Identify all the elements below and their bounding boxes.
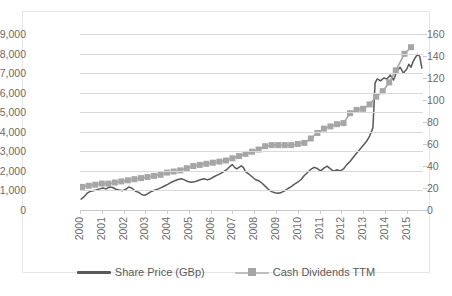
chart-legend: Share Price (GBp) Cash Dividends TTM [23,262,429,282]
data-point-marker [125,177,131,183]
y-axis-right-tick-label: 100 [427,95,452,106]
data-point-marker [295,141,301,147]
data-point-marker [203,161,209,167]
x-axis-tick-label: 2000 [74,217,85,240]
gridline [80,54,423,55]
data-point-marker [80,184,85,190]
y-axis-left-tick-label: 5,000 [0,107,26,118]
y-axis-left-tick-label: 9,000 [0,29,26,40]
x-axis-tick-label: 2001 [96,217,107,240]
x-axis-tick-mark [385,210,386,214]
data-point-marker [197,162,203,168]
y-axis-right-tick-mark [423,166,427,167]
data-point-marker [327,123,333,129]
share-price-line-swatch [77,271,111,274]
x-axis-tick-label: 2004 [161,217,172,240]
data-point-marker [223,158,229,164]
chart-frame: 01,0002,0003,0004,0005,0006,0007,0008,00… [22,11,430,273]
data-point-marker [138,175,144,181]
x-axis-tick-label: 2003 [139,217,150,240]
data-point-marker [408,44,414,50]
data-point-marker [321,126,327,132]
y-axis-left-tick-label: 1,000 [0,185,26,196]
y-axis-right-tick-label: 60 [427,139,452,150]
data-point-marker [229,155,235,161]
data-point-marker [216,159,222,165]
x-axis-tick-mark [407,210,408,214]
y-axis-right-tick-label: 0 [427,205,452,216]
data-point-marker [99,181,105,187]
y-axis-right-tick-mark [423,210,427,211]
data-point-marker [373,94,379,100]
gridline [80,73,423,74]
x-axis-tick-label: 2008 [248,217,259,240]
y-axis-right-tick-label: 20 [427,183,452,194]
y-axis-right-tick-mark [423,100,427,101]
legend-item-cash-dividends[interactable]: Cash Dividends TTM [235,267,376,278]
x-axis-tick-mark [254,210,255,214]
data-point-marker [105,181,111,187]
series-canvas [80,34,423,210]
data-point-marker [269,142,275,148]
x-axis-tick-label: 2014 [379,217,390,240]
data-point-marker [262,143,268,149]
x-axis-tick-mark [189,210,190,214]
x-axis-tick-mark [341,210,342,214]
y-axis-right-tick-mark [423,56,427,57]
gridline [80,34,423,35]
y-axis-left-tick-label: 2,000 [0,166,26,177]
data-point-marker [112,180,118,186]
y-axis-right-tick-mark [423,122,427,123]
data-point-marker [86,183,92,189]
x-axis-tick-label: 2009 [270,217,281,240]
gridline [80,93,423,94]
data-point-marker [386,79,392,85]
x-axis-tick-label: 2010 [292,217,303,240]
x-axis-tick-label: 2015 [401,217,412,240]
gridline [80,151,423,152]
series-line-cash-dividends-ttm [82,47,411,187]
x-axis-tick-label: 2006 [205,217,216,240]
y-axis-right-tick-mark [423,188,427,189]
data-point-marker [360,106,366,112]
y-axis-left-tick-label: 3,000 [0,146,26,157]
x-axis-tick-mark [320,210,321,214]
data-point-marker [190,163,196,169]
x-axis-tick-label: 2011 [314,217,325,240]
data-point-marker [275,142,281,148]
y-axis-left-tick-label: 8,000 [0,49,26,60]
legend-item-share-price[interactable]: Share Price (GBp) [77,267,205,278]
data-point-marker [236,153,242,159]
x-axis-tick-label: 2005 [183,217,194,240]
data-point-marker [145,174,151,180]
data-point-marker [367,101,373,107]
plot-area [80,34,423,210]
x-axis-tick-mark [232,210,233,214]
data-point-marker [92,182,98,188]
data-point-marker [301,140,307,146]
y-axis-right-tick-mark [423,144,427,145]
data-point-marker [151,173,157,179]
data-point-marker [131,176,137,182]
data-point-marker [341,120,347,126]
x-axis-tick-mark [124,210,125,214]
gridline [80,112,423,113]
x-axis-tick-mark [298,210,299,214]
x-axis-tick-label: 2013 [357,217,368,240]
gridline [80,171,423,172]
y-axis-right-tick-label: 140 [427,51,452,62]
x-axis-tick-mark [80,210,81,214]
y-axis-right-tick-label: 40 [427,161,452,172]
x-axis-tick-mark [145,210,146,214]
legend-label-share-price: Share Price (GBp) [115,267,205,278]
x-axis-tick-mark [363,210,364,214]
y-axis-right-tick-label: 160 [427,29,452,40]
data-point-marker [158,172,164,178]
y-axis-right-tick-mark [423,34,427,35]
y-axis-right-tick-label: 80 [427,117,452,128]
data-point-marker [308,136,314,142]
x-axis-tick-mark [276,210,277,214]
cash-dividends-marker-swatch [235,268,269,277]
y-axis-right-tick-label: 120 [427,73,452,84]
x-axis-tick-label: 2002 [118,217,129,240]
